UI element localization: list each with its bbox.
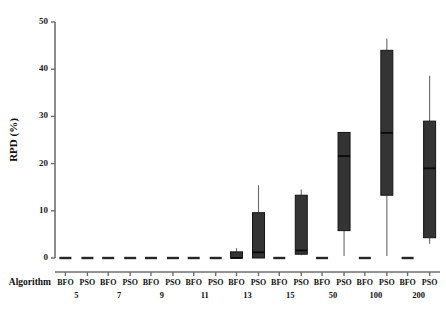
y-tick-label: 40 [39,63,49,73]
group-label-11: 11 [201,290,209,300]
group-label-200: 200 [412,290,425,300]
box-pso-200 [424,76,436,244]
y-tick-label: 30 [39,110,49,120]
box-pso-15 [295,190,307,256]
algorithm-label-bfo: BFO [271,278,287,287]
algorithm-label-bfo: BFO [314,278,330,287]
y-tick-label: 10 [39,205,49,215]
box-rect [381,50,393,195]
algorithm-label-pso: PSO [80,278,96,287]
y-axis-label: RPD (%) [7,118,20,162]
algorithm-label-pso: PSO [122,278,138,287]
algorithm-label-pso: PSO [336,278,352,287]
group-label-100: 100 [369,290,382,300]
box-pso-50 [338,132,350,256]
algorithm-label-bfo: BFO [399,278,415,287]
algorithm-label-bfo: BFO [143,278,159,287]
x-axis-title: Algorithm [9,277,51,287]
y-tick-label: 50 [39,16,49,26]
algorithm-label-pso: PSO [251,278,267,287]
box-rect [295,195,307,254]
algorithm-label-pso: PSO [208,278,224,287]
algorithm-label-pso: PSO [379,278,395,287]
box-pso-13 [253,185,265,258]
boxplot-figure: 01020304050RPD (%)BFOPSO5BFOPSO7BFOPSO9B… [0,0,446,310]
algorithm-label-bfo: BFO [357,278,373,287]
group-label-5: 5 [74,290,78,300]
group-label-7: 7 [117,290,122,300]
group-label-13: 13 [243,290,252,300]
box-rect [338,132,350,230]
labels-layer: 01020304050RPD (%)BFOPSO5BFOPSO7BFOPSO9B… [7,16,437,300]
box-rect [231,252,243,258]
y-tick-label: 0 [44,252,49,262]
box-rect [253,213,265,258]
y-tick-label: 20 [39,158,49,168]
algorithm-label-pso: PSO [422,278,438,287]
boxplot-svg: 01020304050RPD (%)BFOPSO5BFOPSO7BFOPSO9B… [0,0,446,310]
group-label-15: 15 [286,290,295,300]
group-label-50: 50 [329,290,338,300]
algorithm-label-pso: PSO [165,278,181,287]
algorithm-label-bfo: BFO [100,278,116,287]
box-rect [424,121,436,238]
algorithm-label-pso: PSO [293,278,309,287]
algorithm-label-bfo: BFO [228,278,244,287]
algorithm-label-bfo: BFO [57,278,73,287]
boxes-layer [59,39,435,258]
box-pso-100 [381,39,393,257]
algorithm-label-bfo: BFO [185,278,201,287]
box-bfo-13 [231,248,243,258]
group-label-9: 9 [160,290,164,300]
